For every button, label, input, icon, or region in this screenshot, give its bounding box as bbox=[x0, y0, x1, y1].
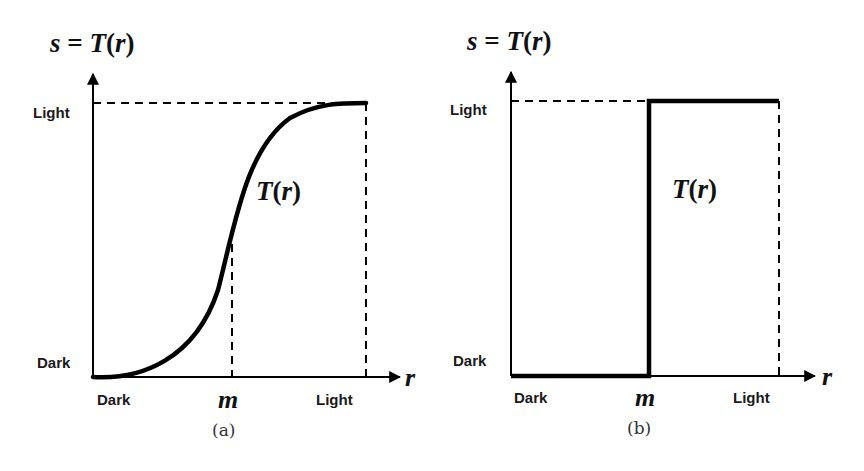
transform-curve bbox=[93, 103, 366, 377]
x-tick-m: m bbox=[218, 385, 238, 414]
y-axis-title: s = T(r) bbox=[49, 28, 134, 58]
x-tick-dark: Dark bbox=[97, 391, 131, 408]
curve-label: T(r) bbox=[672, 174, 717, 204]
x-tick-light: Light bbox=[733, 389, 770, 406]
y-tick-light: Light bbox=[33, 104, 70, 121]
x-axis-var: r bbox=[405, 363, 416, 392]
x-tick-m: m bbox=[635, 383, 655, 412]
caption: (b) bbox=[627, 418, 651, 438]
x-tick-dark: Dark bbox=[514, 389, 548, 406]
panel-b: s = T(r) T(r) Light Dark Dark m Light r … bbox=[450, 26, 833, 438]
caption: (a) bbox=[212, 420, 235, 440]
x-axis-var: r bbox=[822, 362, 833, 391]
intensity-transform-figure: s = T(r) T(r) Light Dark Dark m Light r … bbox=[0, 0, 864, 471]
y-tick-dark: Dark bbox=[37, 354, 71, 371]
y-tick-light: Light bbox=[450, 101, 487, 118]
y-tick-dark: Dark bbox=[453, 352, 487, 369]
curve-label: T(r) bbox=[256, 176, 301, 206]
panel-a: s = T(r) T(r) Light Dark Dark m Light r … bbox=[33, 28, 416, 440]
transform-curve bbox=[511, 101, 779, 376]
y-axis-title: s = T(r) bbox=[466, 26, 551, 56]
x-tick-light: Light bbox=[316, 391, 353, 408]
